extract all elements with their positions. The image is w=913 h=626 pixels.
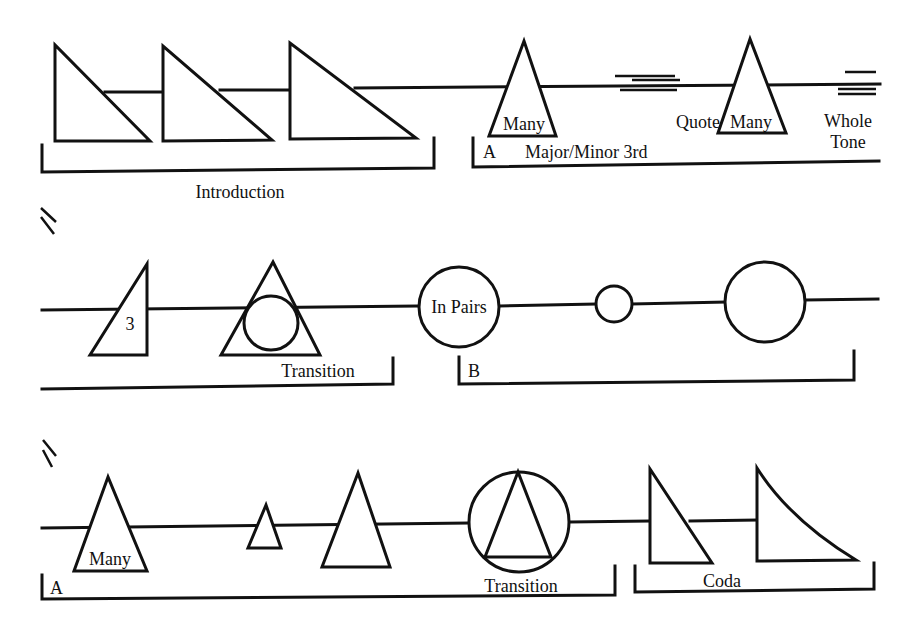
- coda-label: Coda: [703, 571, 741, 591]
- introduction-bracket: [42, 138, 434, 172]
- triangle-shape: [322, 473, 390, 567]
- section-a-label: A: [483, 142, 496, 162]
- many-label: Many: [730, 112, 772, 132]
- section-b-label: B: [468, 361, 480, 381]
- right-triangle-shape: [650, 469, 712, 563]
- major-minor-label: Major/Minor 3rd: [525, 142, 647, 162]
- circle-shape: [596, 286, 632, 322]
- in-pairs-label: In Pairs: [431, 297, 487, 317]
- staff-lines-mark: [615, 76, 680, 90]
- three-label: 3: [126, 314, 135, 334]
- section-b-bracket: [459, 351, 854, 384]
- introduction-label: Introduction: [196, 182, 285, 202]
- row-3: Many A Transition Coda: [42, 440, 874, 599]
- tone-label: Tone: [830, 132, 866, 152]
- coda-bracket: [635, 563, 874, 592]
- quote-label: Quote: [676, 112, 720, 132]
- row-1: Introduction Many Many Quote Whole Tone …: [42, 39, 880, 202]
- whole-label: Whole: [824, 111, 872, 131]
- circle-shape: [244, 296, 298, 350]
- continuation-mark: [41, 208, 56, 234]
- curved-triangle-shape: [757, 468, 856, 561]
- form-diagram: Introduction Many Many Quote Whole Tone …: [0, 0, 913, 626]
- transition-label: Transition: [484, 576, 557, 596]
- section-a-label: A: [50, 578, 63, 598]
- right-triangle-shape: [163, 46, 272, 141]
- right-triangle-shape: [290, 43, 416, 139]
- many-label: Many: [89, 549, 131, 569]
- circle-shape: [725, 262, 805, 342]
- transition-label: Transition: [281, 361, 354, 381]
- row-2: 3 Transition In Pairs B: [41, 208, 878, 389]
- many-label: Many: [503, 114, 545, 134]
- continuation-mark: [43, 440, 56, 467]
